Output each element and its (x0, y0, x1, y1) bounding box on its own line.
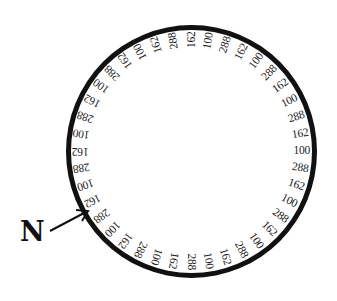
ring-label: 288 (166, 32, 180, 50)
arrow-icon (46, 200, 96, 240)
ring-label: 288 (72, 161, 90, 175)
ring-label: 162 (72, 145, 89, 157)
ring-label: 100 (294, 145, 311, 157)
ring-label: 100 (201, 32, 215, 50)
north-label: N (20, 218, 45, 245)
ring-label: 100 (72, 126, 90, 140)
diagram-canvas: 1622881621002881621002881621002881621002… (0, 0, 337, 301)
ring-label: 288 (185, 253, 197, 270)
ring-label: 100 (201, 251, 215, 269)
ring-label: 162 (291, 126, 309, 140)
ring-label: 162 (166, 251, 180, 269)
circle-outline (66, 25, 317, 278)
ring-label: 162 (185, 31, 197, 48)
